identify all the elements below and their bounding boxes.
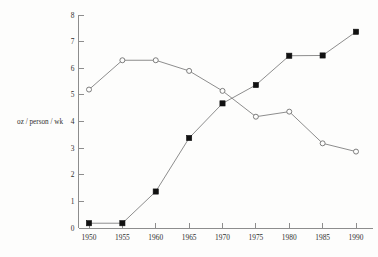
y-tick-label: 3 bbox=[71, 144, 75, 153]
y-tick-label: 1 bbox=[71, 197, 75, 206]
data-point-marker bbox=[320, 141, 325, 146]
y-axis: 012345678 bbox=[71, 11, 84, 233]
data-point-marker bbox=[320, 53, 325, 58]
data-point-marker bbox=[220, 88, 225, 93]
data-point-marker bbox=[253, 114, 258, 119]
y-tick-label: 4 bbox=[71, 117, 75, 126]
data-point-marker bbox=[153, 189, 158, 194]
data-point-marker bbox=[187, 135, 192, 140]
series-filled-square-series bbox=[86, 29, 358, 226]
data-point-marker bbox=[287, 109, 292, 114]
x-tick-label: 1970 bbox=[215, 233, 230, 242]
data-point-marker bbox=[353, 29, 358, 34]
x-tick-label: 1980 bbox=[282, 233, 297, 242]
y-tick-label: 7 bbox=[71, 37, 75, 46]
data-point-marker bbox=[187, 68, 192, 73]
y-tick-label: 6 bbox=[71, 64, 75, 73]
x-tick-label: 1985 bbox=[315, 233, 330, 242]
x-tick-label: 1955 bbox=[115, 233, 130, 242]
data-point-marker bbox=[253, 82, 258, 87]
data-point-marker bbox=[86, 221, 91, 226]
data-point-marker bbox=[153, 58, 158, 63]
chart-page: 012345678 195019551960196519701975198019… bbox=[0, 0, 378, 257]
y-axis-title: oz / person / wk bbox=[17, 118, 63, 126]
data-point-marker bbox=[120, 221, 125, 226]
y-tick-label: 8 bbox=[71, 11, 75, 20]
x-tick-label: 1975 bbox=[248, 233, 263, 242]
data-point-marker bbox=[120, 58, 125, 63]
x-tick-label: 1950 bbox=[82, 233, 97, 242]
x-tick-label: 1965 bbox=[182, 233, 197, 242]
y-tick-label: 0 bbox=[71, 224, 75, 233]
data-point-marker bbox=[354, 149, 359, 154]
data-point-marker bbox=[87, 87, 92, 92]
y-tick-label: 2 bbox=[71, 170, 75, 179]
y-tick-group: 012345678 bbox=[71, 11, 84, 233]
line-chart: 012345678 195019551960196519701975198019… bbox=[0, 0, 378, 257]
data-point-marker bbox=[220, 101, 225, 106]
series-layer bbox=[86, 29, 358, 226]
x-tick-label: 1990 bbox=[349, 233, 364, 242]
data-point-marker bbox=[287, 53, 292, 58]
y-tick-label: 5 bbox=[71, 90, 75, 99]
x-tick-label: 1960 bbox=[148, 233, 163, 242]
